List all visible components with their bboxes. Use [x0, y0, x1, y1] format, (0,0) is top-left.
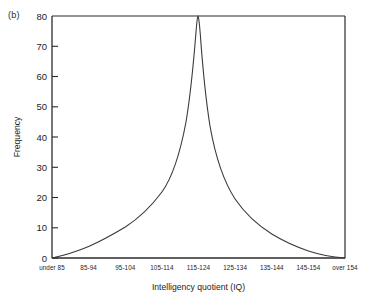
y-axis-ticks	[52, 46, 58, 258]
x-tick-label-5: 125-134	[223, 264, 247, 271]
x-tick-label-4: 115-124	[187, 264, 211, 271]
y-tick-label-30: 30	[36, 162, 47, 173]
plot-frame	[52, 16, 345, 258]
y-tick-label-50: 50	[36, 101, 47, 112]
x-tick-label-7: 145-154	[296, 264, 320, 271]
x-tick-label-0: under 85	[39, 264, 65, 271]
y-tick-label-70: 70	[36, 41, 47, 52]
y-tick-label-10: 10	[36, 222, 47, 233]
chart-page: (b) 0 10 20 30 40 50 60	[0, 0, 374, 307]
x-tick-label-3: 105-114	[150, 264, 174, 271]
frequency-curve	[52, 16, 345, 258]
y-tick-label-40: 40	[36, 132, 47, 143]
y-tick-label-20: 20	[36, 192, 47, 203]
x-tick-label-6: 135-144	[260, 264, 284, 271]
y-axis-title: Frequency	[12, 116, 22, 157]
y-axis-tick-labels: 0 10 20 30 40 50 60 70 80	[36, 11, 47, 264]
y-tick-label-80: 80	[36, 11, 47, 22]
x-tick-label-8: over 154	[332, 264, 358, 271]
y-tick-label-60: 60	[36, 71, 47, 82]
x-tick-label-1: 85-94	[80, 264, 97, 271]
y-tick-label-0: 0	[42, 253, 47, 264]
x-axis-title: Intelligency quotient (IQ)	[152, 282, 245, 292]
frequency-distribution-chart: 0 10 20 30 40 50 60 70 80 Frequency unde…	[0, 0, 374, 307]
x-tick-label-2: 95-104	[115, 264, 136, 271]
x-axis-tick-labels: under 85 85-94 95-104 105-114 115-124 12…	[39, 264, 358, 271]
